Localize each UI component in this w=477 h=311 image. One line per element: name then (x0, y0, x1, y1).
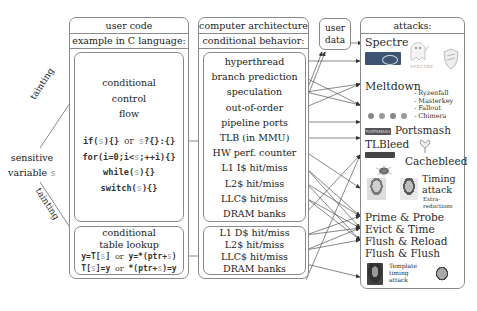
attack-portsmash: Portsmash (395, 124, 451, 136)
researcher-photo-4 (431, 266, 453, 286)
variant-item: - Chimera (414, 113, 453, 121)
intel-hyperthreading-logo-image (365, 52, 401, 65)
extra-line: reductions (423, 203, 453, 210)
table-lookup-heading: conditional table lookup (75, 227, 183, 251)
arch-item: DRAM banks (204, 263, 305, 275)
attack-timing: Timing attack (422, 173, 456, 195)
user-code-subtitle: example in C language: (70, 33, 188, 49)
portsmash-logo-text: PORTSMASH (365, 128, 391, 135)
architecture-title: computer architecture (199, 18, 308, 34)
spectre-ghost-logo-icon (407, 38, 429, 64)
code-line-read: y=T[s] or y=*(ptr+s) (75, 251, 183, 263)
control-behavior-list: hyperthread branch prediction speculatio… (204, 54, 305, 221)
user-data-box: user data (319, 18, 351, 50)
attack-cachebleed: Cachebleed (405, 155, 467, 167)
researcher-photo-2 (400, 178, 418, 200)
control-behavior-box: hyperthread branch prediction speculatio… (203, 52, 306, 222)
cachebleed-splat-icon (375, 162, 393, 174)
arch-item: HW perf. counter (204, 145, 305, 160)
sensitive-label-line2: variable s (2, 165, 62, 180)
heading-line: conditional (75, 227, 183, 239)
arch-item: TLB (in MMU) (204, 130, 305, 145)
attack-flush-reload: Flush & Reload (365, 235, 447, 247)
template-line: timing (389, 269, 417, 276)
arch-item: L1 D$ hit/miss (204, 227, 305, 239)
attack-flush-flush: Flush & Flush (365, 247, 447, 259)
sensitive-label-line1: sensitive (2, 150, 62, 165)
data-behavior-list: L1 D$ hit/miss L2$ hit/miss LLC$ hit/mis… (204, 227, 305, 275)
control-flow-heading: conditional control flow (75, 75, 183, 122)
arch-item: LLC$ hit/miss (204, 251, 305, 263)
arch-item: L1 I$ hit/miss (204, 160, 305, 175)
attack-tlbleed: TLBleed (365, 138, 409, 150)
sensitive-variable-label: sensitive variable s (2, 150, 62, 180)
researcher-photo-3 (367, 263, 383, 285)
portsmash-logo-image: PORTSMASH (365, 128, 391, 135)
arch-item: hyperthread (204, 54, 305, 69)
user-data-line: user (320, 22, 350, 34)
control-flow-box: conditional control flow if(s){} or s?{}… (74, 52, 184, 222)
code-line-switch: switch(s){} (75, 181, 183, 197)
code-line-write: T[s]=y or *(ptr+s)=y (75, 263, 183, 275)
code-line-while: while(s){} (75, 165, 183, 181)
shield-logo-icon (443, 48, 459, 70)
arch-item: speculation (204, 84, 305, 99)
table-lookup-box: conditional table lookup y=T[s] or y=*(p… (74, 226, 184, 275)
arch-item: branch prediction (204, 69, 305, 84)
meltdown-logos-image (367, 105, 411, 113)
attacks-panel: attacks: Spectre SPECTRE Meltdown - Ryze… (360, 17, 465, 289)
code-line-if: if(s){} or s?{}:{} (75, 134, 183, 150)
spectre-logo-text: SPECTRE (410, 64, 434, 69)
arch-item: DRAM banks (204, 206, 305, 221)
heading-line: control (75, 91, 183, 107)
control-flow-code: if(s){} or s?{}:{} for(i=0;i<s;++i){} wh… (75, 134, 183, 196)
heading-line: flow (75, 106, 183, 122)
user-code-title: user code (70, 18, 188, 34)
architecture-subtitle: conditional behavior: (199, 33, 308, 49)
user-data-line: data (320, 34, 350, 46)
table-lookup-code: y=T[s] or y=*(ptr+s) T[s]=y or *(ptr+s)=… (75, 251, 183, 275)
timing-line: attack (422, 184, 456, 195)
data-behavior-box: L1 D$ hit/miss L2$ hit/miss LLC$ hit/mis… (203, 226, 306, 275)
attack-meltdown: Meltdown (365, 80, 421, 93)
cachebleed-logo-image (365, 152, 395, 158)
user-data-label: user data (320, 22, 350, 46)
code-line-for: for(i=0;i<s;++i){} (75, 150, 183, 166)
attacks-title: attacks: (361, 18, 464, 34)
attack-prime-probe: Prime & Probe (365, 211, 447, 223)
template-line: Template (389, 262, 417, 269)
heading-line: table lookup (75, 239, 183, 251)
attack-extra-reductions: Extra- reductions (423, 196, 453, 209)
cache-attacks-list: Prime & Probe Evict & Time Flush & Reloa… (365, 211, 447, 259)
researcher-photo-1 (367, 178, 386, 200)
template-line: attack (389, 276, 417, 283)
arch-item: L2$ hit/miss (204, 239, 305, 251)
arch-item: L2$ hit/miss (204, 176, 305, 191)
arch-item: pipeline ports (204, 115, 305, 130)
arch-item: out-of-order (204, 100, 305, 115)
attack-spectre: Spectre (365, 36, 408, 49)
timing-line: Timing (422, 173, 456, 184)
attack-evict-time: Evict & Time (365, 223, 447, 235)
tlbleed-logo-icon (419, 138, 431, 153)
amd-variants-list: - Ryzenfall - Masterkey - Fallout - Chim… (414, 90, 453, 120)
arch-item: LLC$ hit/miss (204, 191, 305, 206)
attack-template-timing: Template timing attack (389, 262, 417, 283)
heading-line: conditional (75, 75, 183, 91)
